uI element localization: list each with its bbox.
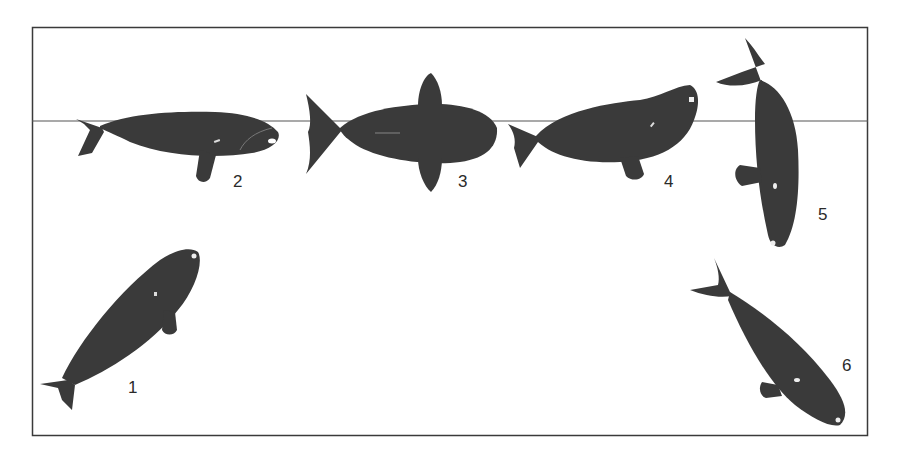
whale-4-icon xyxy=(508,85,698,180)
whale-label-5: 5 xyxy=(818,205,827,225)
diagram-frame xyxy=(33,28,868,436)
whale-1-icon xyxy=(40,249,200,410)
whale-label-6: 6 xyxy=(842,356,851,376)
whale-label-4: 4 xyxy=(664,172,673,192)
whale-5-icon xyxy=(716,38,799,247)
whale-2-icon xyxy=(76,112,279,182)
whale-3-icon xyxy=(306,73,497,192)
whale-label-1: 1 xyxy=(128,378,137,398)
whale-label-2: 2 xyxy=(233,172,242,192)
whale-label-3: 3 xyxy=(458,172,467,192)
whale-6-icon xyxy=(690,258,845,426)
